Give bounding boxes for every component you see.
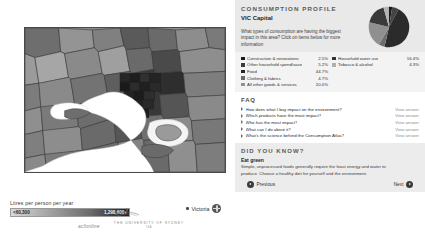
legend-swatch <box>332 57 336 61</box>
faq-item[interactable]: Who has the most impact?View answer <box>241 119 419 126</box>
logo-acfonline-text: acfonline <box>78 223 100 229</box>
did-you-know-section: DID YOU KNOW? Eat green Simple, unproces… <box>235 143 425 192</box>
legend-item[interactable]: Construction & renovations2.5% <box>241 55 328 62</box>
legend-item-percent: 4.3% <box>406 62 419 67</box>
faq-section: FAQ How does what I buy impact on the en… <box>235 92 425 143</box>
logo-university: THE UNIVERSITY OF SYDNEY ISA <box>114 203 184 229</box>
faq-view-answer-link[interactable]: View answer <box>391 127 419 132</box>
university-crest-icon <box>114 208 140 217</box>
profile-question-text: What types of consumption are having the… <box>241 29 345 49</box>
legend-item-percent: 16.4% <box>404 56 419 61</box>
legend-item-percent: 44.7% <box>313 69 328 74</box>
region-label: Victoria <box>192 206 210 212</box>
choropleth-map[interactable] <box>24 27 226 173</box>
legend-column-left: Construction & renovations2.5%Other hous… <box>241 55 328 88</box>
logo-university-subtext: ISA <box>114 225 184 229</box>
legend-item-label: Tobacco & alcohol <box>338 62 373 67</box>
next-button[interactable]: Next <box>394 181 413 188</box>
legend-swatch <box>332 63 336 67</box>
legend-item[interactable]: Household water use16.4% <box>332 55 419 62</box>
faq-item[interactable]: How does what I buy impact on the enviro… <box>241 106 419 113</box>
faq-question: Who has the most impact? <box>246 120 298 125</box>
chevron-right-icon <box>406 181 413 188</box>
faq-view-answer-link[interactable]: View answer <box>391 113 419 118</box>
legend-item[interactable]: Food44.7% <box>241 68 328 75</box>
legend-item-percent: 2.5% <box>315 56 328 61</box>
globe-icon[interactable] <box>212 204 221 213</box>
faq-list: How does what I buy impact on the enviro… <box>241 106 419 139</box>
legend-item[interactable]: Clothing & fabrics4.7% <box>241 75 328 82</box>
chevron-right-icon <box>241 114 243 118</box>
legend-item[interactable]: All other goods & services20.0% <box>241 81 328 88</box>
pie-chart-svg[interactable] <box>367 5 411 49</box>
did-you-know-body: Simple, unprocessed foods generally requ… <box>241 164 401 177</box>
legend-item-percent: 5.2% <box>315 62 328 67</box>
did-you-know-heading: Eat green <box>241 157 419 163</box>
legend-column-right: Household water use16.4%Tobacco & alcoho… <box>332 55 419 88</box>
faq-title: FAQ <box>241 97 419 103</box>
consumption-pie-chart[interactable] <box>367 5 411 49</box>
faq-view-answer-link[interactable]: View answer <box>391 120 419 125</box>
faq-item[interactable]: What can I do about it?View answer <box>241 126 419 133</box>
faq-item[interactable]: What's the science behind the Consumptio… <box>241 132 419 139</box>
did-you-know-title: DID YOU KNOW? <box>241 148 419 154</box>
legend-item-label: Construction & renovations <box>247 56 299 61</box>
chevron-right-icon <box>241 134 243 138</box>
legend-swatch <box>241 63 245 67</box>
consumption-legend: Construction & renovations2.5%Other hous… <box>235 52 425 92</box>
chevron-right-icon <box>241 127 243 131</box>
legend-item-percent: 4.7% <box>315 76 328 81</box>
legend-item-label: Other household spend/save <box>247 62 302 67</box>
next-label: Next <box>394 182 404 187</box>
legend-item-percent: 20.0% <box>313 82 328 87</box>
legend-swatch <box>241 57 245 61</box>
consumption-atlas-app: Litres per person per year <60,300 1,298… <box>0 0 425 235</box>
navigation-row: Previous Next <box>241 177 419 188</box>
bullet-icon <box>186 207 189 210</box>
faq-view-answer-link[interactable]: View answer <box>391 133 419 138</box>
map-regions-svg[interactable] <box>25 28 225 172</box>
legend-item-label: Clothing & fabrics <box>247 76 281 81</box>
previous-label: Previous <box>257 182 276 187</box>
footer-logos: acfonline THE UNIVERSITY OF SYDNEY ISA <box>6 203 184 229</box>
legend-swatch <box>241 76 245 80</box>
chevron-right-icon <box>241 120 243 124</box>
faq-question: Which products have the most impact? <box>246 113 322 118</box>
faq-question: What's the science behind the Consumptio… <box>246 133 345 138</box>
faq-view-answer-link[interactable]: View answer <box>391 107 419 112</box>
content-panel: CONSUMPTION PROFILE VIC Capital What typ… <box>235 0 425 235</box>
legend-item-label: Food <box>247 69 257 74</box>
faq-question: What can I do about it? <box>246 127 291 132</box>
legend-item[interactable]: Other household spend/save5.2% <box>241 62 328 69</box>
consumption-profile-header: CONSUMPTION PROFILE VIC Capital What typ… <box>235 0 425 52</box>
logo-acfonline: acfonline <box>78 223 100 229</box>
previous-button[interactable]: Previous <box>247 181 275 188</box>
faq-question: How does what I buy impact on the enviro… <box>246 107 342 112</box>
legend-swatch <box>241 70 245 74</box>
legend-item[interactable]: Tobacco & alcohol4.3% <box>332 62 419 69</box>
chevron-right-icon <box>241 107 243 111</box>
region-selector-victoria[interactable]: Victoria <box>186 204 221 213</box>
faq-item[interactable]: Which products have the most impact?View… <box>241 113 419 120</box>
legend-swatch <box>241 83 245 87</box>
map-panel: Litres per person per year <60,300 1,298… <box>0 0 235 235</box>
legend-item-label: All other goods & services <box>247 82 297 87</box>
legend-item-label: Household water use <box>338 56 378 61</box>
chevron-left-icon <box>247 181 254 188</box>
